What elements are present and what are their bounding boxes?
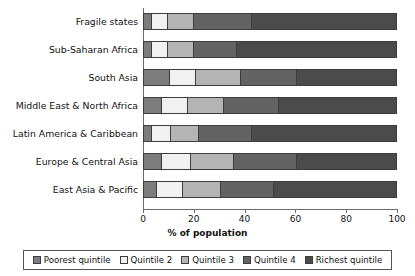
bar-segment	[296, 154, 396, 169]
legend-item: Quintile 2	[120, 255, 173, 265]
bar-segment	[193, 42, 236, 57]
legend-item: Quintile 4	[243, 255, 296, 265]
bar-row	[143, 125, 397, 142]
chart-legend: Poorest quintileQuintile 2Quintile 3Quin…	[23, 250, 392, 270]
bar-segment	[144, 42, 151, 57]
x-tick-mark	[143, 209, 144, 213]
bar-segment	[195, 70, 241, 85]
legend-label: Quintile 2	[131, 255, 173, 265]
category-label: Sub-Saharan Africa	[49, 43, 138, 57]
bar-segment	[144, 182, 156, 197]
category-label: East Asia & Pacific	[53, 183, 138, 197]
x-axis-line	[143, 209, 398, 210]
x-tick-label: 0	[140, 214, 146, 224]
legend-label: Poorest quintile	[44, 255, 111, 265]
bar-segment	[151, 42, 167, 57]
bar-segment	[144, 14, 151, 29]
bar-row	[143, 13, 397, 30]
x-tick-label: 100	[388, 214, 405, 224]
bar-row	[143, 97, 397, 114]
bar-segment	[278, 98, 396, 113]
x-axis-title: % of population	[0, 228, 415, 238]
bar-segment	[193, 14, 251, 29]
category-label: Europe & Central Asia	[36, 155, 138, 169]
bars-container	[143, 4, 399, 208]
bar-segment	[240, 70, 296, 85]
bar-segment	[161, 98, 187, 113]
bar-segment	[233, 154, 296, 169]
stacked-bar-chart: Fragile statesSub-Saharan AfricaSouth As…	[0, 0, 415, 276]
category-label: Fragile states	[76, 15, 138, 29]
bar-segment	[198, 126, 251, 141]
x-tick-label: 80	[340, 214, 351, 224]
x-tick-mark	[194, 209, 195, 213]
category-label: Latin America & Caribbean	[13, 127, 138, 141]
category-label: South Asia	[89, 71, 138, 85]
bar-segment	[187, 98, 223, 113]
x-tick-mark	[245, 209, 246, 213]
x-tick-label: 20	[188, 214, 199, 224]
bar-segment	[167, 42, 193, 57]
bar-segment	[251, 14, 396, 29]
bar-segment	[167, 14, 193, 29]
plot-area: Fragile statesSub-Saharan AfricaSouth As…	[0, 4, 415, 208]
bar-segment	[170, 126, 198, 141]
bar-segment	[144, 154, 161, 169]
bar-row	[143, 41, 397, 58]
bar-segment	[236, 42, 396, 57]
x-tick-mark	[346, 209, 347, 213]
legend-swatch-icon	[305, 256, 313, 264]
bar-segment	[151, 14, 167, 29]
bar-row	[143, 153, 397, 170]
legend-label: Quintile 4	[254, 255, 296, 265]
bar-segment	[190, 154, 233, 169]
legend-label: Quintile 3	[192, 255, 234, 265]
legend-swatch-icon	[120, 256, 128, 264]
bar-segment	[220, 182, 273, 197]
bar-row	[143, 69, 397, 86]
legend-label: Richest quintile	[316, 255, 383, 265]
category-label: Middle East & North Africa	[16, 99, 138, 113]
bar-segment	[151, 126, 169, 141]
bar-segment	[296, 70, 396, 85]
legend-item: Quintile 3	[181, 255, 234, 265]
bar-segment	[161, 154, 189, 169]
legend-swatch-icon	[243, 256, 251, 264]
legend-swatch-icon	[33, 256, 41, 264]
x-tick-label: 40	[239, 214, 250, 224]
legend-item: Poorest quintile	[33, 255, 111, 265]
bar-segment	[169, 70, 195, 85]
category-axis-labels: Fragile statesSub-Saharan AfricaSouth As…	[0, 4, 141, 208]
bar-segment	[182, 182, 220, 197]
bar-segment	[223, 98, 279, 113]
bar-segment	[156, 182, 182, 197]
legend-swatch-icon	[181, 256, 189, 264]
bar-row	[143, 181, 397, 198]
bar-segment	[251, 126, 396, 141]
bar-segment	[273, 182, 396, 197]
x-tick-mark	[295, 209, 296, 213]
x-tick-mark	[397, 209, 398, 213]
bar-segment	[144, 70, 169, 85]
bar-segment	[144, 98, 161, 113]
bar-segment	[144, 126, 151, 141]
x-tick-label: 60	[290, 214, 301, 224]
legend-item: Richest quintile	[305, 255, 383, 265]
